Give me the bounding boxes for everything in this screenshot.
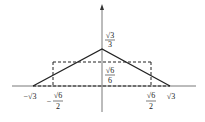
svg-text:6: 6 [108,76,112,85]
diagram-canvas: √3 3 √6 6 −√3 − √6 2 √6 2 √3 [0,0,205,122]
label-neg-root3: −√3 [24,92,37,101]
svg-text:2: 2 [56,102,60,111]
y-axis-arrow-icon [100,4,104,10]
svg-text:√6: √6 [106,66,114,75]
label-root6-half: √6 2 [146,91,156,111]
svg-text:√6: √6 [54,91,62,100]
svg-text:√3: √3 [106,31,114,40]
svg-text:−: − [47,97,52,106]
label-apex: √3 3 [105,31,115,49]
dashed-rectangle [33,62,170,86]
label-rect-height: √6 6 [105,66,115,85]
svg-text:3: 3 [108,40,112,49]
svg-text:2: 2 [149,102,153,111]
svg-text:√6: √6 [147,91,155,100]
triangle [33,49,170,86]
label-neg-root6-half: − √6 2 [47,91,63,111]
label-root3: √3 [167,92,175,101]
